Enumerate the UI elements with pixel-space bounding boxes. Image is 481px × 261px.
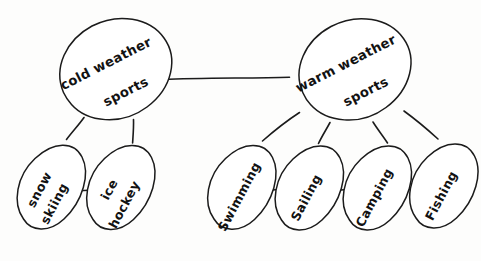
diagram-canvas: cold weather sports warm weather sports … [0,0,481,261]
node-cold-weather-sports[interactable]: cold weather sports [58,18,172,119]
node-fishing[interactable]: Fishing [410,144,478,228]
connector-warm-to-sailing [319,123,331,144]
node-camping[interactable]: Camping [343,146,411,230]
node-sailing[interactable]: Sailing [275,146,343,230]
connector-cold-to-snow-skiing [67,118,85,140]
node-warm-weather-sports[interactable]: warm weather sports [293,19,411,120]
connector-cold-to-ice-hockey [133,120,134,144]
connector-warm-to-camping [373,122,388,143]
connector-cold-to-warm [164,77,290,79]
connector-warm-to-swimming [263,113,300,142]
node-snow-skiing[interactable]: snow skiing [17,145,85,229]
connector-warm-to-fishing [404,111,438,139]
concept-map-sketch: cold weather sports warm weather sports … [0,0,481,261]
node-ice-hockey[interactable]: ice hockey [87,145,155,230]
node-swimming[interactable]: Swimming [208,145,276,233]
